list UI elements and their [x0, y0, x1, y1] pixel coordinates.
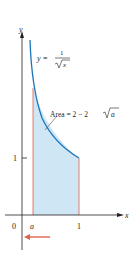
x-tick-1-label: 1	[77, 222, 81, 231]
function-denominator: x	[62, 61, 67, 69]
x-tick-a-label: a	[30, 222, 34, 231]
x-axis-label: x	[124, 211, 129, 220]
area-label: Area = 2 − 2	[50, 110, 88, 119]
y-axis-label: y	[18, 25, 23, 34]
area-label-var: a	[111, 110, 115, 119]
function-numerator: 1	[60, 49, 64, 57]
improper-integral-diagram: y x 0 a 1 1 y = 1 x Area = 2 − 2 a	[0, 0, 134, 262]
function-label-lhs: y =	[36, 54, 48, 63]
x-axis-arrow-icon	[117, 213, 124, 217]
limit-arrow-head-icon	[24, 234, 30, 240]
y-tick-1-label: 1	[13, 154, 17, 163]
shaded-area	[33, 88, 79, 215]
origin-label: 0	[12, 222, 16, 231]
